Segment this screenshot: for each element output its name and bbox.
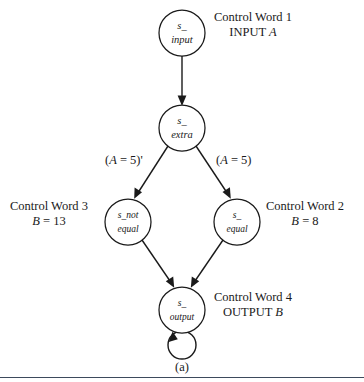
figure-bottom-rule [0, 377, 364, 378]
node-s-equal-label-2: equal [226, 224, 247, 234]
figure-caption: (a) [0, 360, 364, 375]
arrowhead-icon [191, 276, 199, 287]
control-word-2-action: B = 8 [266, 214, 344, 229]
edge-equal-to-output [191, 240, 223, 288]
control-word-1-action: INPUT A [214, 25, 292, 40]
node-s-output-label-1: s_ [178, 298, 187, 308]
annotation-control-word-3: Control Word 3 B = 13 [10, 199, 88, 229]
state-diagram-figure: s_ input s_ extra s_not equal s_ equal s… [0, 0, 364, 382]
node-s-extra[interactable]: s_ extra [159, 105, 205, 151]
edge-not-equal-to-output [142, 240, 174, 288]
node-s-not-equal[interactable]: s_not equal [105, 199, 151, 245]
node-s-output[interactable]: s_ output [159, 287, 205, 333]
edge-label-not-equal-condition: (A = 5)' [105, 153, 143, 168]
annotation-control-word-4: Control Word 4 OUTPUT B [214, 290, 292, 320]
control-word-4-action: OUTPUT B [214, 305, 292, 320]
annotation-control-word-2: Control Word 2 B = 8 [266, 199, 344, 229]
control-word-4-title: Control Word 4 [214, 290, 292, 305]
control-word-2-title: Control Word 2 [266, 199, 344, 214]
edge-input-to-extra [178, 56, 187, 106]
node-s-extra-label-2: extra [171, 129, 193, 140]
control-word-1-title: Control Word 1 [214, 10, 292, 25]
node-s-equal-label-1: s_ [233, 210, 242, 220]
node-s-input[interactable]: s_ input [159, 10, 205, 56]
node-s-not-equal-label-1: s_not [118, 210, 139, 220]
node-s-input-label-2: input [171, 34, 194, 45]
annotation-control-word-1: Control Word 1 INPUT A [214, 10, 292, 40]
node-s-output-label-2: output [170, 312, 195, 322]
arrowhead-icon [166, 276, 174, 287]
edge-label-right-variable: A [220, 153, 228, 167]
edge-label-left-variable: A [109, 153, 117, 167]
control-word-3-action: B = 13 [10, 214, 88, 229]
node-s-not-equal-label-2: equal [117, 224, 138, 234]
node-s-extra-label-1: s_ [177, 115, 187, 126]
state-diagram-canvas: s_ input s_ extra s_not equal s_ equal s… [0, 0, 364, 382]
control-word-3-title: Control Word 3 [10, 199, 88, 214]
node-s-input-label-1: s_ [177, 20, 187, 31]
node-s-equal[interactable]: s_ equal [214, 199, 260, 245]
edge-output-self-loop [168, 331, 196, 359]
edge-label-equal-condition: (A = 5) [216, 153, 252, 168]
